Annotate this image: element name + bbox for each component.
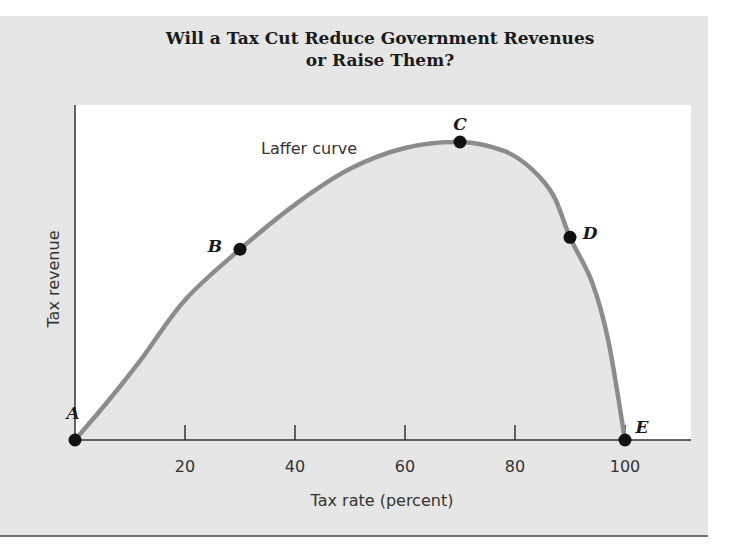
point-c bbox=[454, 136, 467, 149]
point-label-a: A bbox=[64, 403, 79, 423]
x-tick-label: 60 bbox=[395, 457, 415, 476]
point-a bbox=[69, 434, 82, 447]
y-axis-label: Tax revenue bbox=[44, 231, 63, 329]
x-tick-label: 20 bbox=[175, 457, 195, 476]
x-tick-label: 40 bbox=[285, 457, 305, 476]
laffer-curve-label: Laffer curve bbox=[261, 139, 357, 158]
x-tick-label: 80 bbox=[505, 457, 525, 476]
point-e bbox=[619, 434, 632, 447]
x-tick-label: 100 bbox=[610, 457, 641, 476]
point-label-e: E bbox=[635, 417, 650, 437]
point-label-d: D bbox=[582, 223, 598, 243]
point-d bbox=[564, 231, 577, 244]
laffer-curve-chart: 20406080100 ABCDE Laffer curve Tax rate … bbox=[0, 0, 742, 554]
point-label-c: C bbox=[453, 114, 467, 134]
point-b bbox=[234, 243, 247, 256]
point-label-b: B bbox=[207, 236, 222, 256]
x-axis-label: Tax rate (percent) bbox=[310, 491, 454, 510]
